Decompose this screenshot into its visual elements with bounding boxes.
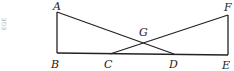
segment-cf xyxy=(110,15,228,54)
label-c: C xyxy=(104,58,113,71)
label-f: F xyxy=(223,1,232,14)
label-g: G xyxy=(139,26,148,39)
segment-ad xyxy=(57,12,174,54)
label-a: A xyxy=(52,0,61,13)
label-e: E xyxy=(221,59,230,71)
label-b: B xyxy=(50,58,59,71)
segment-be xyxy=(57,53,228,55)
geometry-diagram: A B C D E F G xyxy=(0,0,234,71)
label-d: D xyxy=(168,58,178,71)
